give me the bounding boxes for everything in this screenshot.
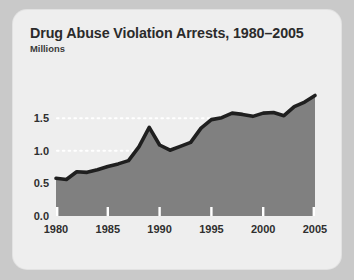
y-axis-tick-label: 0.0 (34, 210, 49, 222)
plot-area: 0.00.51.01.5 198019851990199520002005 (13, 10, 341, 269)
y-axis-tick-label: 1.5 (34, 112, 49, 124)
chart-page: Drug Abuse Violation Arrests, 1980–2005 … (0, 0, 354, 280)
x-axis-tick-label: 1980 (44, 223, 68, 235)
y-axis-tick-label: 0.5 (34, 177, 49, 189)
x-axis-tick-label: 2005 (303, 223, 327, 235)
x-axis-tick-label: 2000 (251, 223, 275, 235)
x-axis-tick-label: 1990 (147, 223, 171, 235)
x-axis-tick-label: 1995 (199, 223, 223, 235)
y-axis-labels: 0.00.51.01.5 (34, 112, 49, 222)
x-axis-labels: 198019851990199520002005 (44, 223, 327, 235)
chart-card: Drug Abuse Violation Arrests, 1980–2005 … (13, 10, 341, 269)
y-axis-tick-label: 1.0 (34, 145, 49, 157)
x-axis-tick-label: 1985 (96, 223, 120, 235)
area-chart-svg: 0.00.51.01.5 198019851990199520002005 (13, 10, 341, 269)
